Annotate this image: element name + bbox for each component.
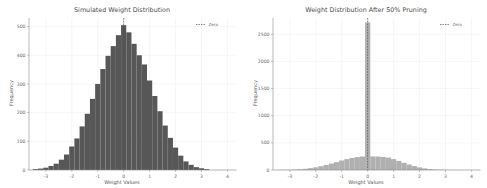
x-axis-label-left: Weight Values	[104, 179, 140, 186]
histogram-bar	[318, 166, 323, 170]
histogram-bar	[116, 35, 121, 170]
y-axis-label-right: Frequency	[252, 80, 259, 106]
y-tick-label: 100	[17, 139, 26, 144]
histogram-bar	[111, 46, 116, 170]
histogram-bars-left	[33, 25, 209, 170]
y-tick-label: 1000	[257, 113, 269, 118]
histogram-bar	[380, 157, 385, 170]
x-axis-label-right: Weight Values	[348, 179, 384, 186]
legend-label-right: Zero	[452, 22, 462, 27]
histogram-bar	[396, 161, 401, 170]
histogram-bar	[401, 163, 406, 170]
histogram-bar	[354, 157, 359, 170]
right-chart-svg: Weight Distribution After 50% Pruning 05…	[244, 0, 487, 188]
histogram-bar	[137, 55, 142, 170]
x-axis-ticks-left: -3-2-101234	[44, 170, 229, 179]
histogram-bar	[48, 166, 53, 170]
histogram-bar	[339, 161, 344, 171]
x-tick-label: 3	[200, 174, 203, 179]
histogram-bars-right	[276, 22, 452, 170]
y-tick-label: 500	[17, 24, 26, 29]
histogram-bar	[375, 157, 380, 170]
x-tick-label: 1	[392, 174, 395, 179]
y-axis-label-left: Frequency	[8, 80, 15, 106]
histogram-bar	[80, 126, 85, 170]
chart-panel-left: Simulated Weight Distribution 0100200300…	[0, 0, 244, 188]
x-tick-label: 4	[469, 174, 472, 179]
histogram-bar	[349, 158, 354, 170]
x-tick-label: -3	[44, 174, 49, 179]
histogram-bar	[106, 56, 111, 170]
histogram-bar	[90, 99, 95, 170]
x-axis-ticks-right: -3-2-101234	[287, 170, 472, 179]
histogram-bar	[416, 167, 421, 170]
x-tick-label: 2	[418, 174, 421, 179]
y-tick-label: 300	[17, 82, 26, 87]
histogram-bar	[163, 126, 168, 170]
axes-spines-right	[273, 18, 481, 170]
histogram-bar	[411, 166, 416, 170]
y-tick-label: 1500	[257, 86, 269, 91]
legend-left: Zero	[196, 22, 218, 27]
histogram-bar	[126, 32, 131, 170]
histogram-bar	[64, 155, 69, 170]
legend-right: Zero	[440, 22, 462, 27]
histogram-bar	[370, 156, 375, 170]
histogram-bar	[406, 165, 411, 170]
histogram-bar	[85, 114, 90, 170]
y-tick-label: 400	[17, 53, 26, 58]
x-tick-label: -3	[287, 174, 292, 179]
histogram-bar	[43, 168, 48, 170]
histogram-bar	[328, 164, 333, 170]
histogram-bar	[157, 111, 162, 170]
x-tick-label: 0	[366, 174, 369, 179]
x-tick-label: 2	[174, 174, 177, 179]
x-tick-label: -2	[70, 174, 75, 179]
histogram-bar	[54, 164, 59, 170]
figure-canvas: Simulated Weight Distribution 0100200300…	[0, 0, 487, 188]
x-tick-label: 4	[226, 174, 229, 179]
histogram-bar	[152, 96, 157, 170]
histogram-bar	[385, 158, 390, 170]
histogram-bar	[59, 160, 64, 170]
chart-title-left: Simulated Weight Distribution	[74, 6, 170, 14]
histogram-bar	[100, 69, 105, 170]
x-tick-label: 1	[148, 174, 151, 179]
histogram-bar	[313, 167, 318, 170]
histogram-bar	[323, 165, 328, 170]
y-tick-label: 2500	[257, 32, 269, 37]
x-tick-label: -1	[95, 174, 100, 179]
histogram-bar	[183, 161, 188, 170]
y-axis-ticks-left: 0100200300400500	[17, 24, 29, 172]
histogram-bar	[95, 84, 100, 170]
x-tick-label: 3	[444, 174, 447, 179]
x-tick-label: 0	[122, 174, 125, 179]
y-tick-label: 200	[17, 110, 26, 115]
histogram-bar	[359, 157, 364, 170]
x-tick-label: -1	[339, 174, 344, 179]
histogram-bar	[74, 138, 79, 170]
histogram-bar	[131, 44, 136, 170]
histogram-bar	[147, 81, 152, 170]
left-chart-svg: Simulated Weight Distribution 0100200300…	[0, 0, 244, 188]
histogram-bar	[189, 165, 194, 170]
histogram-bar	[391, 159, 396, 170]
y-axis-ticks-right: 05001000150020002500	[257, 32, 272, 173]
histogram-bar	[69, 146, 74, 170]
histogram-bar	[344, 159, 349, 170]
histogram-bar	[333, 162, 338, 170]
histogram-bar	[173, 148, 178, 170]
chart-panel-right: Weight Distribution After 50% Pruning 05…	[244, 0, 487, 188]
chart-title-right: Weight Distribution After 50% Pruning	[305, 6, 427, 14]
histogram-bar	[142, 64, 147, 170]
histogram-bar	[194, 167, 199, 170]
x-tick-label: -2	[313, 174, 318, 179]
y-tick-label: 0	[266, 168, 269, 173]
histogram-bar	[178, 156, 183, 170]
y-tick-label: 2000	[257, 59, 269, 64]
histogram-bar	[168, 138, 173, 170]
y-tick-label: 500	[260, 140, 269, 145]
legend-label-left: Zero	[209, 22, 219, 27]
y-tick-label: 0	[23, 168, 26, 173]
gridlines-right	[273, 18, 481, 170]
